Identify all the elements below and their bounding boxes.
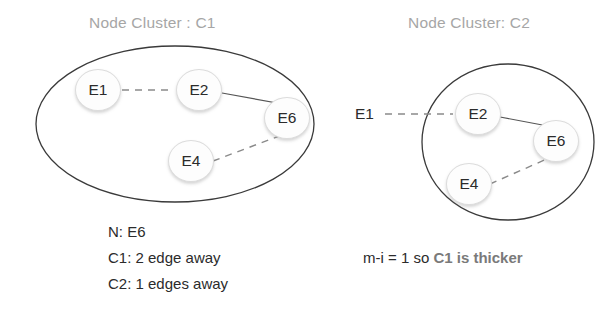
caption-left-line1: N: E6 bbox=[108, 219, 228, 245]
node-c2-e1-label[interactable]: E1 bbox=[355, 105, 374, 123]
node-c1-e6-label: E6 bbox=[278, 110, 297, 126]
node-c2-e2-label: E2 bbox=[469, 106, 488, 122]
node-c1-e2-label: E2 bbox=[190, 82, 209, 98]
node-c1-e2[interactable]: E2 bbox=[176, 69, 222, 111]
cluster-c1-title: Node Cluster : C1 bbox=[89, 14, 216, 32]
node-c2-e2[interactable]: E2 bbox=[455, 93, 501, 135]
edge-c1-e4-e6 bbox=[213, 135, 282, 161]
node-c2-e6-label: E6 bbox=[547, 133, 566, 149]
node-c2-e6[interactable]: E6 bbox=[533, 120, 579, 162]
caption-left-line2: C1: 2 edge away bbox=[108, 245, 228, 271]
node-c2-e4-label: E4 bbox=[460, 176, 479, 192]
node-c1-e4[interactable]: E4 bbox=[168, 140, 214, 182]
node-c2-e4[interactable]: E4 bbox=[446, 163, 492, 205]
caption-right-emphasis: C1 is thicker bbox=[433, 249, 522, 266]
node-c1-e6[interactable]: E6 bbox=[264, 97, 310, 139]
node-c1-e4-label: E4 bbox=[182, 153, 201, 169]
caption-right: m-i = 1 so C1 is thicker bbox=[363, 245, 523, 271]
node-c1-e1-label: E1 bbox=[89, 82, 108, 98]
caption-left-line3: C2: 1 edges away bbox=[108, 271, 228, 297]
caption-left: N: E6 C1: 2 edge away C2: 1 edges away bbox=[108, 219, 228, 297]
caption-right-prefix: m-i = 1 so bbox=[363, 249, 433, 266]
cluster-c2-title: Node Cluster: C2 bbox=[408, 14, 530, 32]
node-c1-e1[interactable]: E1 bbox=[75, 69, 121, 111]
edge-c2-e4-e6 bbox=[490, 158, 549, 184]
